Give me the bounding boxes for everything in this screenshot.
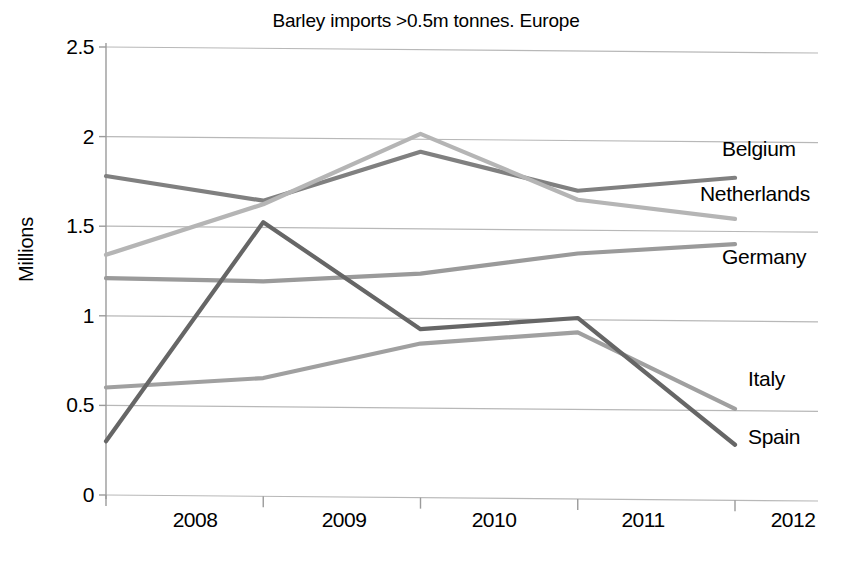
- gridline-2: [106, 137, 818, 143]
- series-label-belgium: Belgium: [722, 137, 796, 161]
- x-tick-2008: 2008: [150, 508, 240, 532]
- axes: [99, 43, 106, 499]
- series-label-spain: Spain: [748, 425, 800, 449]
- series-lines: [106, 134, 735, 445]
- series-label-netherlands: Netherlands: [700, 182, 810, 206]
- x-tick-2012: 2012: [748, 508, 838, 532]
- gridline-2-5: [106, 47, 818, 53]
- gridline-1: [106, 316, 818, 322]
- x-tick-2009: 2009: [299, 508, 389, 532]
- chart-container: Barley imports >0.5m tonnes. Europe Mill…: [0, 0, 852, 566]
- x-tick-2010: 2010: [449, 508, 539, 532]
- gridline-0-5: [106, 405, 818, 411]
- series-label-italy: Italy: [748, 367, 785, 391]
- gridline-0: [106, 495, 818, 501]
- x-tick-2011: 2011: [598, 508, 688, 532]
- series-label-germany: Germany: [722, 245, 806, 269]
- series-line-spain: [106, 222, 735, 445]
- series-line-germany: [106, 244, 735, 281]
- gridline-1-5: [106, 226, 818, 232]
- gridlines: [106, 47, 818, 501]
- series-line-belgium: [106, 152, 735, 201]
- plot-area: [0, 0, 852, 566]
